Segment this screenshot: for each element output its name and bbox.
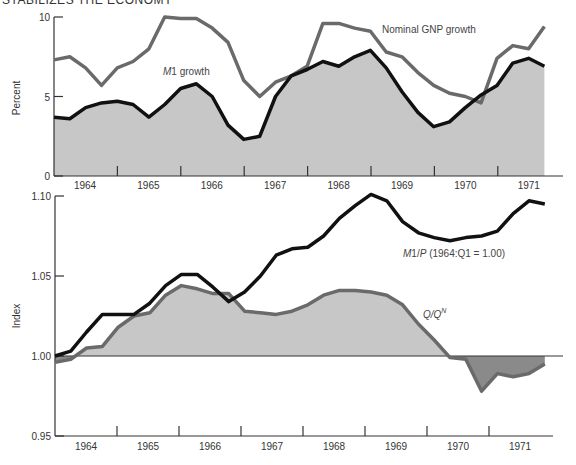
x-tick-label: 1967 [261,441,284,452]
y-tick-label: 0 [44,171,50,182]
x-tick-label: 1968 [327,180,350,191]
x-tick-label: 1970 [447,441,470,452]
x-tick-label: 1971 [518,180,541,191]
x-tick-label: 1969 [391,180,414,191]
y-tick-label: 1.05 [32,271,52,282]
x-tick-label: 1971 [509,441,532,452]
y-tick-label: 0.95 [32,431,52,442]
m1-growth-label: M1 growth [163,66,210,77]
y-tick-label: 10 [39,12,51,23]
x-tick-label: 1967 [264,180,287,191]
x-tick-label: 1965 [137,441,160,452]
chart-canvas: 051019641965196619671968196919701971Perc… [0,0,576,465]
q-qn-label: Q/QN [423,307,447,320]
y-axis-title: Index [11,304,22,328]
output-gap-positive-area [55,286,545,392]
x-tick-label: 1968 [323,441,346,452]
top-chart-percent: 051019641965196619671968196919701971Perc… [11,12,563,191]
x-tick-label: 1966 [199,441,222,452]
m1-p-label: M1/P (1964:Q1 = 1.00) [403,248,505,259]
nominal-gnp-label: Nominal GNP growth [382,24,476,35]
x-tick-label: 1964 [75,441,98,452]
y-tick-label: 1.00 [32,351,52,362]
x-tick-label: 1965 [137,180,160,191]
y-tick-label: 5 [44,92,50,103]
y-axis-title: Percent [11,81,22,116]
x-tick-label: 1966 [201,180,224,191]
y-tick-label: 1.10 [32,191,52,202]
bottom-chart-index: 0.951.001.051.10196419651966196719681969… [11,191,563,452]
x-tick-label: 1964 [74,180,97,191]
x-tick-label: 1969 [385,441,408,452]
x-tick-label: 1970 [454,180,477,191]
